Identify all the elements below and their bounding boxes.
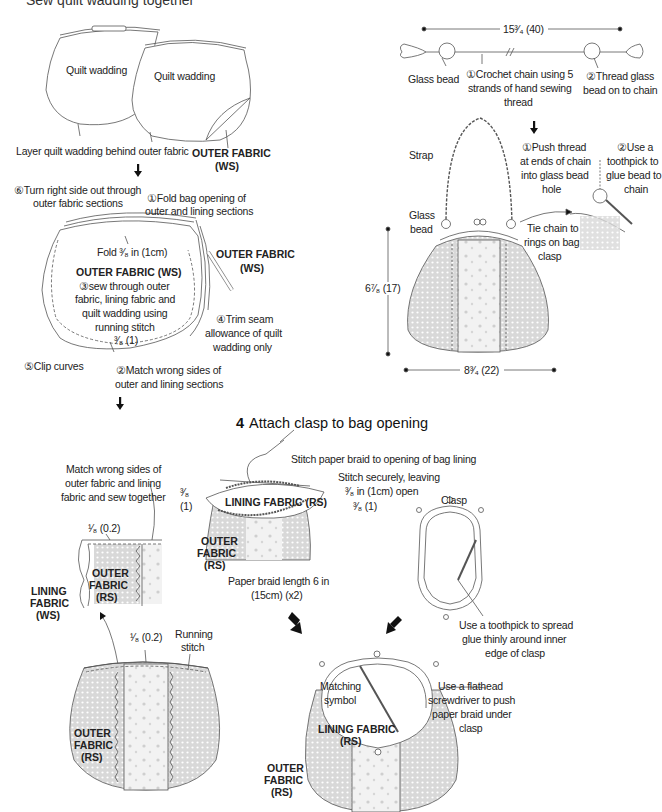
- diagonal-arrow-icon: [288, 612, 302, 634]
- seam-measure: ¹⁄₈ (0.2): [130, 631, 162, 644]
- use-toothpick-label: ②Use a: [617, 141, 653, 154]
- step2-label: ②Match wrong sides of: [116, 364, 221, 377]
- step4-label: wadding only: [213, 341, 272, 354]
- braid-length-label: (15cm) (x2): [251, 589, 302, 602]
- three-eighths-measure: ³⁄₈: [180, 486, 189, 499]
- seam-measure: ¹⁄₈ (0.2): [88, 522, 120, 535]
- width-measure: 8³⁄₄ (22): [462, 364, 501, 377]
- three-eighths-measure: ³⁄₈ (1): [353, 500, 377, 513]
- match-sew-label: fabric and sew together: [61, 491, 166, 504]
- layer-caption: Layer quilt wadding behind outer fabric: [16, 145, 189, 158]
- stitch-secure-label: Stitch securely, leaving: [338, 471, 440, 484]
- push-thread-label: into glass bead: [521, 169, 589, 182]
- flathead-label: screwdriver to push: [428, 694, 515, 707]
- strap-length-measure: 15³⁄₄ (40): [501, 23, 546, 36]
- wadding-label: Quilt wadding: [66, 64, 127, 77]
- section-heading: 4Attach clasp to bag opening: [236, 415, 428, 431]
- lining-fabric-ws-label: (WS): [36, 609, 60, 622]
- crochet-step-label: thread: [504, 96, 533, 109]
- fold-measure: Fold ³⁄₈ in (1cm): [97, 246, 167, 259]
- glass-bead-label: Glass bead: [408, 73, 459, 86]
- use-toothpick-label: toothpick to: [607, 155, 658, 168]
- outer-fabric-ws-title: OUTER FABRIC (WS): [76, 266, 182, 279]
- matching-symbol-label: Matching: [320, 680, 361, 693]
- use-toothpick-label: chain: [624, 183, 648, 196]
- clasp-label: Clasp: [441, 494, 467, 507]
- spread-glue-label: Use a toothpick to spread: [459, 619, 573, 632]
- thread-bead-label: bead on to chain: [583, 84, 657, 97]
- step4-label: ④Trim seam: [216, 313, 273, 326]
- tie-chain-label: rings on bag: [524, 236, 579, 249]
- down-arrow-icon: [134, 164, 142, 177]
- glass-bead-label: Glass: [409, 209, 435, 222]
- use-toothpick-label: glue bead to: [606, 169, 661, 182]
- down-arrow-icon: [116, 397, 124, 410]
- outer-fabric-rs-label: (RS): [271, 786, 293, 799]
- wadding-label: Quilt wadding: [154, 70, 215, 83]
- diagonal-arrow-icon: [386, 616, 402, 634]
- step3-label: running stitch: [95, 321, 155, 334]
- three-eighths-measure: (1): [180, 500, 192, 513]
- matching-symbol-label: symbol: [324, 694, 356, 707]
- running-stitch-label: Running: [175, 628, 213, 641]
- push-thread-label: ①Push thread: [522, 141, 586, 154]
- strap-label: Strap: [409, 149, 433, 162]
- seam-measure: ³⁄₈ (1): [114, 334, 138, 347]
- outer-fabric-rs-label: (RS): [204, 559, 226, 572]
- step4-label: allowance of quilt: [205, 327, 282, 340]
- step6-label: outer fabric sections: [33, 197, 123, 210]
- quilt-wadding-diagram: [46, 26, 251, 148]
- spread-glue-label: edge of clasp: [485, 647, 545, 660]
- outer-fabric-ws-label: (WS): [240, 262, 264, 275]
- outer-fabric-ws-label: (WS): [215, 160, 239, 173]
- crochet-step-label: ①Crochet chain using 5: [466, 68, 573, 81]
- lining-fabric-rs-label: LINING FABRIC (RS): [225, 496, 327, 509]
- match-sew-label: outer fabric and lining: [65, 477, 161, 490]
- push-thread-label: at ends of chain: [520, 155, 591, 168]
- outer-fabric-rs-label: (RS): [81, 751, 103, 764]
- spread-glue-label: glue thinly around inner: [462, 633, 566, 646]
- stitch-secure-label: ³⁄₈ in (1cm) open: [345, 485, 418, 498]
- step1-label: ①Fold bag opening of: [147, 192, 246, 205]
- flathead-label: clasp: [459, 722, 483, 735]
- step6-label: ⑥Turn right side out through: [14, 184, 141, 197]
- section-title: Attach clasp to bag opening: [249, 415, 428, 431]
- down-arrow-icon: [530, 121, 538, 134]
- thread-bead-label: ②Thread glass: [586, 70, 654, 83]
- tie-chain-label: clasp: [538, 250, 562, 263]
- push-thread-label: hole: [542, 183, 561, 196]
- match-sew-label: Match wrong sides of: [66, 463, 161, 476]
- section-number: 4: [236, 415, 244, 431]
- tie-chain-label: Tie chain to: [527, 222, 579, 235]
- step3-label: ③sew through outer: [79, 280, 169, 293]
- height-measure: 6⁷⁄₈ (17): [365, 282, 401, 295]
- step1-label: outer and lining sections: [145, 205, 253, 218]
- outer-fabric-ws-label: OUTER FABRIC: [192, 147, 271, 160]
- running-stitch-label: stitch: [181, 641, 204, 654]
- glass-bead-label: bead: [410, 223, 433, 236]
- step2-label: outer and lining sections: [115, 378, 223, 391]
- cut-off-heading: Sew quilt wadding together: [26, 0, 194, 8]
- clasp-diagram: [417, 497, 484, 620]
- outer-fabric-rs-label: (RS): [96, 591, 118, 604]
- lining-fabric-rs-label: (RS): [340, 735, 362, 748]
- flathead-label: Use a flathead: [438, 680, 503, 693]
- braid-length-label: Paper braid length 6 in: [228, 575, 329, 588]
- step3-label: fabric, lining fabric and: [75, 293, 175, 306]
- flathead-label: paper braid under: [432, 708, 512, 721]
- step5-label: ⑤Clip curves: [24, 360, 84, 373]
- crochet-step-label: strands of hand sewing: [468, 82, 572, 95]
- step3-label: quilt wadding using: [82, 307, 168, 320]
- bag-running-stitch-diagram: [70, 650, 220, 790]
- outer-fabric-ws-label: OUTER FABRIC: [216, 248, 295, 261]
- stitch-braid-label: Stitch paper braid to opening of bag lin…: [291, 453, 476, 466]
